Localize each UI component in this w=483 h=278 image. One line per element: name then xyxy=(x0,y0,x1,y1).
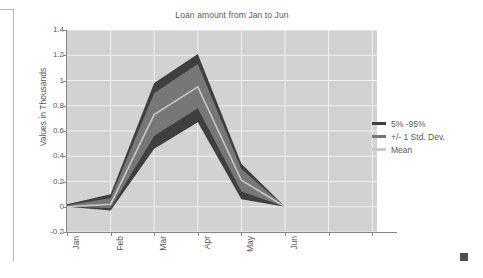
legend-item-mean[interactable]: Mean xyxy=(372,143,483,156)
y-tick-label: 0.4 xyxy=(24,152,64,160)
y-tick-label: 0.2 xyxy=(24,178,64,186)
legend-swatch-icon xyxy=(372,135,386,138)
x-tick-label-apr: Apr xyxy=(202,236,212,276)
legend-item--1-std-dev-[interactable]: +/- 1 Std. Dev. xyxy=(372,130,483,143)
legend-label: +/- 1 Std. Dev. xyxy=(391,132,445,142)
x-tick-label-feb: Feb xyxy=(115,236,125,276)
x-tick-mark xyxy=(372,233,373,236)
y-tick-label: 1.4 xyxy=(24,26,64,34)
x-tick-mark xyxy=(111,233,112,236)
chart-title: Loan amount from Jan to Jun xyxy=(122,10,342,20)
y-tick-label: -0.2 xyxy=(24,228,64,236)
x-tick-mark xyxy=(198,233,199,236)
plot-svg xyxy=(67,30,377,232)
chart-screenshot: Loan amount from Jan to Jun Values in Th… xyxy=(0,0,483,278)
plot-area xyxy=(67,30,377,232)
legend-label: Mean xyxy=(391,145,412,155)
y-tick-label: 1.2 xyxy=(24,51,64,59)
x-axis-line xyxy=(67,232,397,233)
x-tick-mark xyxy=(154,233,155,236)
document-frame-tick xyxy=(0,9,14,10)
y-tick-label: 0.8 xyxy=(24,102,64,110)
legend-swatch-icon xyxy=(372,122,386,125)
x-tick-label-jan: Jan xyxy=(71,236,81,276)
legend-item-5-95-[interactable]: 5% -95% xyxy=(372,117,483,130)
chart-container: Loan amount from Jan to Jun Values in Th… xyxy=(22,2,422,278)
y-axis-labels: Values in Thousands 1.41.210.80.60.40.20… xyxy=(22,2,64,278)
corner-marker xyxy=(460,253,468,261)
x-tick-label-may: May xyxy=(245,236,255,276)
x-tick-mark xyxy=(67,233,68,236)
y-tick-label: 0 xyxy=(24,203,64,211)
x-tick-label-jun: Jun xyxy=(289,236,299,276)
x-tick-mark xyxy=(241,233,242,236)
document-frame-line xyxy=(13,9,14,261)
y-tick-label: 0.6 xyxy=(24,127,64,135)
y-tick-label: 1 xyxy=(24,77,64,85)
x-tick-label-mar: Mar xyxy=(158,236,168,276)
chart-legend: 5% -95%+/- 1 Std. Dev.Mean xyxy=(372,117,483,156)
series-layer xyxy=(67,54,285,211)
legend-label: 5% -95% xyxy=(391,119,426,129)
x-tick-mark xyxy=(285,233,286,236)
legend-swatch-icon xyxy=(372,148,386,151)
x-tick-mark xyxy=(329,233,330,236)
